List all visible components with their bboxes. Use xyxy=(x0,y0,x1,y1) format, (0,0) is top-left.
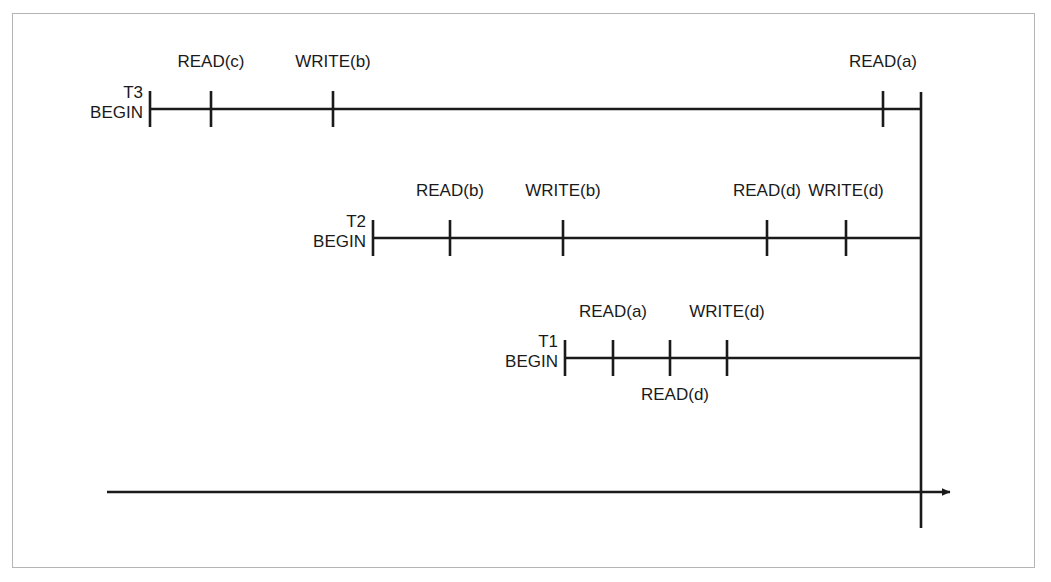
operation-label-T3-READa: READ(a) xyxy=(849,52,917,72)
transaction-begin-T1: BEGIN xyxy=(505,352,558,372)
transaction-label-T3: T3BEGIN xyxy=(90,83,143,123)
transaction-begin-T2: BEGIN xyxy=(313,232,366,252)
transaction-begin-T3: BEGIN xyxy=(90,103,143,123)
operation-label-T2-WRITEd: WRITE(d) xyxy=(808,181,884,201)
transaction-name-T1: T1 xyxy=(505,332,558,352)
operation-label-T3-READc: READ(c) xyxy=(177,52,244,72)
timeline-svg xyxy=(0,0,1051,582)
operation-label-T2-WRITEb: WRITE(b) xyxy=(525,181,601,201)
diagram-canvas: T3BEGINREAD(c)WRITE(b)READ(a)T2BEGINREAD… xyxy=(0,0,1051,582)
operation-label-T1-READd: READ(d) xyxy=(641,385,709,405)
operation-label-T2-READb: READ(b) xyxy=(416,181,484,201)
operation-label-T2-READd: READ(d) xyxy=(733,181,801,201)
operation-label-T3-WRITEb: WRITE(b) xyxy=(295,52,371,72)
operation-label-T1-READa: READ(a) xyxy=(579,302,647,322)
transaction-name-T3: T3 xyxy=(90,83,143,103)
transaction-label-T1: T1BEGIN xyxy=(505,332,558,372)
operation-label-T1-WRITEd: WRITE(d) xyxy=(689,302,765,322)
transaction-name-T2: T2 xyxy=(313,212,366,232)
transaction-label-T2: T2BEGIN xyxy=(313,212,366,252)
timeline-lines xyxy=(107,91,950,528)
